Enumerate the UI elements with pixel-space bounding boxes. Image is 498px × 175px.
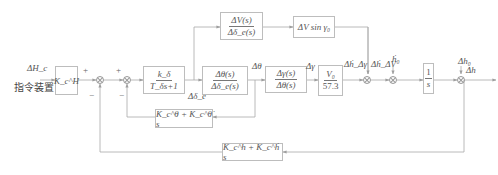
servo-denominator: T_δs+1 [150, 81, 178, 91]
speed-fraction: ΔV(s) Δδ_e(s) [228, 16, 255, 37]
summing-junction-2 [123, 76, 131, 84]
initial-climb-rate-label: ḣ₀ [392, 55, 400, 64]
speed-numerator: ΔV(s) [229, 16, 253, 27]
integrator-numerator: 1 [425, 68, 432, 79]
velocity-gain-numerator: V₀ [324, 70, 337, 81]
summing-junction-1 [96, 76, 104, 84]
summing-junction-5 [457, 76, 465, 84]
servo-block: k_δ T_δs+1 [143, 66, 185, 94]
path-angle-numerator: Δγ(s) [275, 69, 297, 80]
altitude-output-label: Δh [466, 66, 476, 75]
altitude-feedback-text: K_c^h + K_c^ḣ s [223, 142, 282, 162]
pitch-numerator: Δθ(s) [213, 70, 236, 81]
pitch-angle-label: Δθ [252, 62, 262, 71]
integrator-block: 1 s [423, 63, 434, 94]
velocity-gain-denominator: 57.3 [323, 81, 339, 91]
v-sin-gamma-block: ΔV sin γ₀ [293, 16, 335, 38]
velocity-gain-fraction: V₀ 57.3 [323, 70, 339, 91]
pitch-transfer-block: Δθ(s) Δδ_e(s) [202, 66, 248, 95]
path-angle-fraction: Δγ(s) Δθ(s) [275, 69, 297, 90]
servo-numerator: k_δ [156, 70, 173, 81]
pitch-feedback-text: K_c^θ + K_c^θ̇ s [156, 109, 212, 129]
pitch-denominator: Δδ_e(s) [211, 81, 238, 91]
path-angle-label: Δγ [306, 62, 315, 71]
altitude-gain-text: K_c^H [54, 76, 79, 86]
integrator-fraction: 1 s [425, 68, 432, 89]
sum2-plus-sign: + [116, 66, 121, 75]
block-diagram: ΔH_c 指令装置 K_c^H + − + − k_δ T_δs+1 Δδ_e … [0, 0, 498, 175]
v-sin-gamma-text: ΔV sin γ₀ [298, 22, 330, 32]
sum1-plus-sign: + [83, 66, 88, 75]
sum1-minus-sign: − [89, 91, 94, 100]
servo-fraction: k_δ T_δs+1 [150, 70, 178, 91]
pitch-fraction: Δθ(s) Δδ_e(s) [211, 70, 238, 91]
speed-denominator: Δδ_e(s) [228, 27, 255, 37]
command-device-label: 指令装置 [14, 79, 54, 94]
speed-transfer-block: ΔV(s) Δδ_e(s) [220, 12, 263, 40]
path-angle-transfer-block: Δγ(s) Δθ(s) [265, 66, 307, 93]
summing-junction-3 [363, 76, 371, 84]
velocity-gain-block: V₀ 57.3 [318, 65, 343, 96]
input-signal-label: ΔH_c [27, 64, 47, 73]
altitude-feedback-block: K_c^h + K_c^ḣ s [222, 143, 283, 161]
summing-junction-4 [389, 76, 397, 84]
sum2-minus-sign: − [119, 91, 124, 100]
pitch-feedback-block: K_c^θ + K_c^θ̇ s [155, 109, 213, 128]
altitude-gain-block: K_c^H [55, 66, 78, 95]
integrator-denominator: s [427, 79, 431, 89]
path-angle-denominator: Δθ(s) [276, 80, 295, 90]
climb-rate-gamma-label: Δḣ_Δγ [344, 60, 367, 69]
